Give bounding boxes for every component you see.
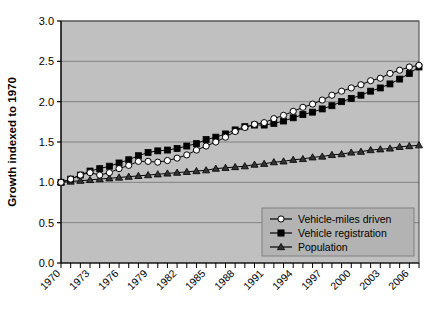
legend: Vehicle-miles drivenVehicle registration… <box>262 208 414 256</box>
data-point-marker <box>193 147 199 153</box>
data-point-marker <box>203 137 209 143</box>
data-point-marker <box>387 70 393 76</box>
legend-label-3: Population <box>298 241 348 253</box>
data-point-marker <box>193 141 199 147</box>
data-point-marker <box>232 128 238 134</box>
x-axis-tick-label: 1985 <box>183 267 208 292</box>
x-axis-tick-label: 1973 <box>66 267 91 292</box>
data-point-marker <box>222 134 228 140</box>
data-point-marker <box>377 85 383 91</box>
y-axis-title: Growth indexed to 1970 <box>6 77 18 207</box>
data-point-marker <box>213 139 219 145</box>
data-point-marker <box>164 147 170 153</box>
x-axis-tick-label: 1979 <box>124 267 149 292</box>
data-point-marker <box>406 70 412 76</box>
data-point-marker <box>135 158 141 164</box>
y-axis-tick-label: 2.5 <box>39 55 54 67</box>
data-point-marker <box>164 157 170 163</box>
data-point-marker <box>387 81 393 87</box>
data-point-marker <box>87 170 93 176</box>
data-point-marker <box>338 88 344 94</box>
data-point-marker <box>377 75 383 81</box>
data-point-marker <box>397 67 403 73</box>
data-point-marker <box>106 170 112 176</box>
data-point-marker <box>348 95 354 101</box>
data-point-marker <box>329 92 335 98</box>
x-axis: 1970197319761979198219851988199119941997… <box>37 263 419 292</box>
data-point-marker <box>251 121 257 127</box>
data-point-marker <box>77 172 83 178</box>
x-axis-tick-label: 1970 <box>37 267 62 292</box>
data-point-marker <box>339 99 345 105</box>
legend-label-2: Vehicle registration <box>298 227 387 239</box>
data-point-marker <box>145 158 151 164</box>
x-axis-tick-label: 2003 <box>357 267 382 292</box>
data-point-marker <box>174 155 180 161</box>
y-axis-tick-label: 1.0 <box>39 176 54 188</box>
data-point-marker <box>58 179 64 185</box>
data-point-marker <box>155 148 161 154</box>
y-axis: 0.00.51.01.52.02.53.0 <box>39 15 61 269</box>
data-point-marker <box>184 152 190 158</box>
data-point-marker <box>280 112 286 118</box>
x-axis-tick-label: 1976 <box>95 267 120 292</box>
data-point-marker <box>290 108 296 114</box>
data-point-marker <box>174 145 180 151</box>
y-axis-tick-label: 0.0 <box>39 257 54 269</box>
x-axis-tick-label: 1997 <box>299 267 324 292</box>
x-axis-tick-label: 2000 <box>328 267 353 292</box>
y-axis-tick-label: 3.0 <box>39 15 54 27</box>
data-point-marker <box>116 166 122 172</box>
data-point-marker <box>300 112 306 118</box>
data-point-marker <box>290 115 296 121</box>
data-point-marker <box>300 104 306 110</box>
data-point-marker <box>184 143 190 149</box>
y-axis-tick-label: 2.0 <box>39 96 54 108</box>
x-axis-tick-label: 1991 <box>241 267 266 292</box>
x-axis-tick-label: 1988 <box>212 267 237 292</box>
data-point-marker <box>397 76 403 82</box>
data-point-marker <box>358 92 364 98</box>
data-point-marker <box>348 85 354 91</box>
x-axis-tick-label: 1982 <box>154 267 179 292</box>
data-point-marker <box>97 172 103 178</box>
data-point-marker <box>406 64 412 70</box>
y-axis-tick-label: 0.5 <box>39 217 54 229</box>
data-point-marker <box>278 216 284 222</box>
x-axis-tick-label: 2006 <box>386 267 411 292</box>
data-point-marker <box>319 106 325 112</box>
data-point-marker <box>155 159 161 165</box>
data-point-marker <box>310 109 316 115</box>
data-point-marker <box>126 162 132 168</box>
data-point-marker <box>278 230 284 236</box>
data-point-marker <box>271 116 277 122</box>
chart-container: 0.00.51.01.52.02.53.01970197319761979198… <box>0 0 438 322</box>
data-point-marker <box>319 97 325 103</box>
data-point-marker <box>368 78 374 84</box>
legend-label-1: Vehicle-miles driven <box>298 213 392 225</box>
data-point-marker <box>106 163 112 169</box>
data-point-marker <box>145 149 151 155</box>
data-point-marker <box>416 62 422 68</box>
x-axis-tick-label: 1994 <box>270 267 295 292</box>
data-point-marker <box>368 88 374 94</box>
data-point-marker <box>68 176 74 182</box>
data-point-marker <box>203 143 209 149</box>
growth-index-line-chart: 0.00.51.01.52.02.53.01970197319761979198… <box>0 0 438 322</box>
data-point-marker <box>97 166 103 172</box>
data-point-marker <box>261 120 267 126</box>
data-point-marker <box>329 103 335 109</box>
y-axis-tick-label: 1.5 <box>39 136 54 148</box>
data-point-marker <box>358 82 364 88</box>
data-point-marker <box>309 101 315 107</box>
data-point-marker <box>242 124 248 130</box>
